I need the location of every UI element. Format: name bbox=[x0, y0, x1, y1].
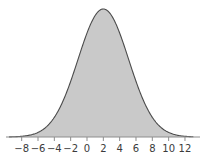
x-axis-tick-label: −6 bbox=[31, 144, 46, 154]
x-axis-tick-label: −8 bbox=[14, 144, 29, 154]
x-axis-tick-label: 4 bbox=[116, 144, 122, 154]
x-axis-tick-label: −4 bbox=[47, 144, 62, 154]
x-axis-tick-label: 10 bbox=[162, 144, 175, 154]
x-axis-tick-label: −2 bbox=[63, 144, 78, 154]
curve-group bbox=[9, 9, 193, 137]
chart-plot-area bbox=[0, 0, 206, 162]
axis-group bbox=[6, 137, 200, 141]
x-axis-tick-label: 8 bbox=[149, 144, 155, 154]
distribution-fill-area bbox=[9, 9, 193, 137]
x-axis-tick-label: 6 bbox=[133, 144, 139, 154]
x-axis-tick-label: 2 bbox=[100, 144, 106, 154]
x-axis-tick-label: 0 bbox=[84, 144, 90, 154]
x-axis-tick-label: 12 bbox=[179, 144, 192, 154]
normal-distribution-chart: −8−6−4−2024681012 bbox=[0, 0, 206, 162]
x-axis-ticks bbox=[22, 137, 185, 141]
